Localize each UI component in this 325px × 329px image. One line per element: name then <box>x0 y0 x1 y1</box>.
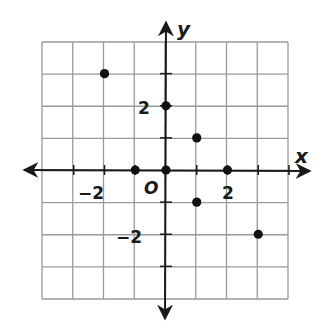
data-points <box>100 69 263 239</box>
x-tick-label-neg2: −2 <box>78 183 104 203</box>
data-point <box>192 133 201 142</box>
x-axis-label: x <box>294 144 309 168</box>
data-point <box>192 198 201 207</box>
y-tick-label-2: 2 <box>138 98 150 118</box>
coordinate-plane: y x O −2 2 2 −2 <box>0 0 325 329</box>
data-point <box>254 230 263 239</box>
origin-label: O <box>144 178 158 198</box>
data-point <box>223 165 232 174</box>
data-point <box>161 165 170 174</box>
y-tick-label-neg2: −2 <box>116 227 142 247</box>
x-tick-label-2: 2 <box>222 183 234 203</box>
data-point <box>131 165 140 174</box>
data-point <box>100 69 109 78</box>
data-point <box>161 101 170 110</box>
y-axis-label: y <box>177 17 191 41</box>
